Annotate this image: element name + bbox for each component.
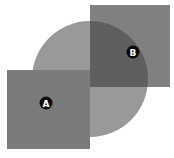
square-a [7,70,90,149]
overlap-diagram: A B [0,0,174,158]
marker-a-label: A [43,99,50,109]
marker-b: B [127,46,140,59]
marker-b-label: B [130,48,137,58]
marker-a: A [40,97,53,110]
